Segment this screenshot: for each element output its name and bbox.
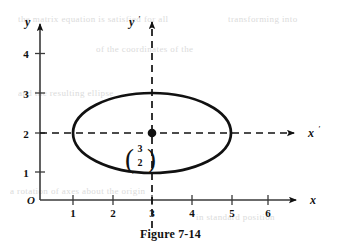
x-prime-axis-label: x	[307, 126, 314, 140]
y-tick-label-3: 3	[23, 88, 29, 100]
x-tick-label-2: 2	[110, 207, 116, 219]
x-tick-label-5: 5	[229, 207, 235, 219]
x-tick-label-4: 4	[189, 207, 195, 219]
y-tick-label-2: 2	[23, 128, 29, 140]
vector-right-paren: )	[147, 144, 156, 174]
y-prime-mark: ′	[138, 14, 141, 24]
vector-bottom-value: 2	[138, 157, 143, 168]
vector-top-value: 3	[138, 143, 143, 154]
y-axis-label: y	[23, 15, 31, 29]
center-point-marker	[148, 129, 157, 138]
center-vector-annotation: ( 3 2 )	[125, 143, 156, 174]
figure-plot: 4 3 2 1 1 2 3 4 5 6 y x	[0, 0, 341, 251]
x-axis-tick-labels: 1 2 3 4 5 6	[70, 207, 271, 219]
y-tick-label-1: 1	[23, 167, 29, 179]
y-tick-label-4: 4	[23, 48, 29, 60]
origin-label: O	[27, 194, 35, 206]
figure-container: the matrix equation is satisfied for all…	[0, 0, 341, 251]
y-prime-axis-label: y	[127, 15, 135, 29]
translated-axes-group	[40, 22, 294, 228]
figure-caption: Figure 7-14	[0, 227, 341, 242]
y-axis-tick-labels: 4 3 2 1	[23, 48, 29, 179]
x-axis-label: x	[309, 193, 316, 207]
x-tick-label-6: 6	[265, 207, 271, 219]
x-prime-mark: ′	[318, 124, 321, 134]
vector-left-paren: (	[125, 144, 134, 174]
x-tick-label-1: 1	[70, 207, 76, 219]
